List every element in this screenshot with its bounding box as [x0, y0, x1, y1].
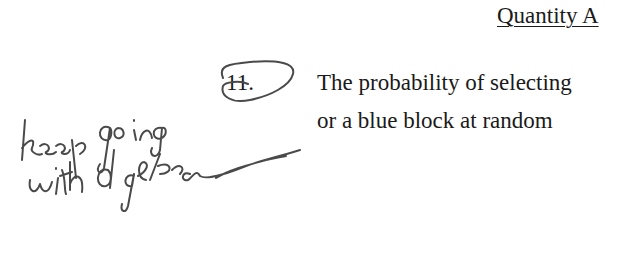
handwriting-with-algebra-icon [30, 150, 300, 211]
handwritten-annotations [0, 0, 634, 260]
handwriting-keep-going-icon [22, 120, 166, 178]
circle-around-number-icon [222, 61, 294, 101]
